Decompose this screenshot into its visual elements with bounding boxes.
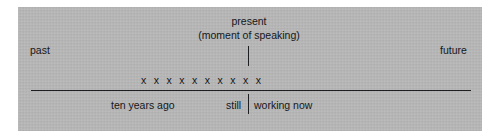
duration-x-mark: x <box>243 74 248 87</box>
present-marker-label-group: present (moment of speaking) <box>0 14 499 42</box>
duration-x-mark: x <box>230 74 235 87</box>
duration-x-mark: x <box>141 74 146 87</box>
present-marker-line-upper <box>248 46 249 66</box>
annotation-working-now: working now <box>254 99 312 112</box>
duration-x-mark: x <box>179 74 184 87</box>
axis-label-past: past <box>30 44 50 57</box>
annotation-still: still <box>226 99 241 112</box>
timeline-diagram-screenshot: past future present (moment of speaking)… <box>0 0 499 138</box>
present-label: present <box>0 14 499 28</box>
duration-x-mark: x <box>256 74 261 87</box>
present-marker-line-lower <box>248 94 249 114</box>
duration-x-mark: x <box>167 74 172 87</box>
axis-label-future: future <box>440 44 467 57</box>
duration-x-mark: x <box>205 74 210 87</box>
moment-of-speaking-label: (moment of speaking) <box>0 28 499 42</box>
timeline-axis-line <box>31 90 471 91</box>
duration-x-mark: x <box>192 74 197 87</box>
annotation-ten-years-ago: ten years ago <box>111 99 175 112</box>
duration-x-marks: x x x x x x x x x x <box>141 74 261 87</box>
duration-x-mark: x <box>218 74 223 87</box>
duration-x-mark: x <box>154 74 159 87</box>
